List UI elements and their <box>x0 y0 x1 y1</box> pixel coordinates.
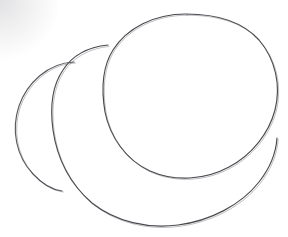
sketch-drawing <box>0 0 288 237</box>
sketch-canvas <box>0 0 288 237</box>
